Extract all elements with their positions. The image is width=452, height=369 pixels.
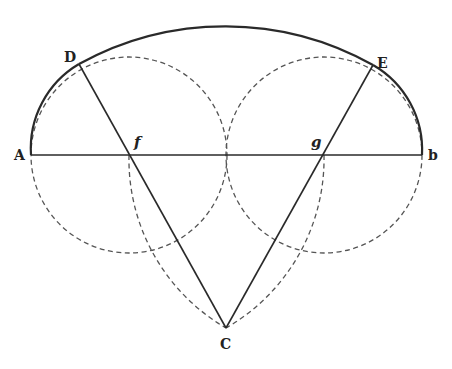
label-point-e: E <box>377 56 388 70</box>
solid-arc-d-e <box>79 26 373 65</box>
label-point-g: g <box>311 135 322 150</box>
solid-arc-a-d <box>31 64 79 155</box>
label-point-f: f <box>134 135 140 150</box>
solid-arc-e-b <box>373 65 422 155</box>
label-point-c: C <box>220 337 231 351</box>
label-point-b: b <box>428 148 438 162</box>
line-d-c <box>79 64 226 328</box>
line-e-c <box>226 65 373 328</box>
label-point-a: A <box>14 148 25 162</box>
diagram-canvas: A b C D E f g <box>0 0 452 369</box>
label-point-d: D <box>64 50 76 64</box>
